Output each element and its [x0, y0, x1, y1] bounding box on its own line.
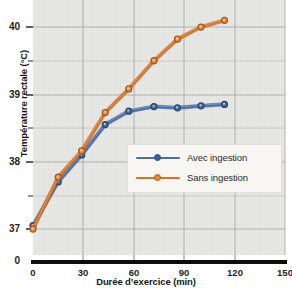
data-point-marker-highlight [80, 149, 82, 151]
data-point-marker-highlight [176, 38, 178, 40]
data-point-marker-highlight [127, 87, 129, 89]
data-point-marker-highlight [153, 59, 155, 61]
legend-item-avec-ingestion[interactable]: Avec ingestion [136, 151, 247, 164]
series-sans-ingestion [30, 17, 228, 232]
data-point-marker-highlight [223, 19, 225, 21]
data-point-marker-highlight [104, 111, 106, 113]
series-line-halo [33, 20, 225, 229]
data-point-marker-highlight [104, 123, 106, 125]
data-point-marker-highlight [200, 25, 202, 27]
data-series-layer [30, 17, 228, 232]
legend-marker-blue [154, 154, 161, 161]
data-point-marker-highlight [57, 176, 59, 178]
y-tick-label-37: 37 [0, 223, 20, 234]
legend-item-sans-ingestion[interactable]: Sans ingestion [136, 171, 248, 184]
y-axis-title: Température rectale (°C) [18, 19, 29, 189]
data-point-marker-highlight [153, 105, 155, 107]
legend-label-avec-ingestion: Avec ingestion [187, 152, 247, 163]
data-point-marker-highlight [176, 106, 178, 108]
legend-label-sans-ingestion: Sans ingestion [187, 172, 248, 183]
legend-marker-orange [154, 174, 161, 181]
chart-figure: 40 39 38 37 0 0 30 60 90 120 150 Tempéra… [0, 0, 292, 294]
series-line-highlight [33, 20, 225, 229]
data-point-marker-highlight [200, 104, 202, 106]
y-axis-minor-ticks [28, 61, 33, 196]
data-point-marker-highlight [223, 103, 225, 105]
data-point-marker-highlight [32, 227, 34, 229]
series-line [33, 20, 225, 229]
legend-swatch-sans-ingestion [136, 173, 180, 183]
x-axis-ticks [83, 255, 235, 260]
y-tick-label-zero: 0 [0, 255, 20, 266]
data-point-marker-highlight [127, 110, 129, 112]
x-axis-title: Durée d’exercice (min) [0, 276, 292, 287]
legend-swatch-avec-ingestion [136, 153, 180, 163]
gridlines-vertical [83, 0, 285, 255]
